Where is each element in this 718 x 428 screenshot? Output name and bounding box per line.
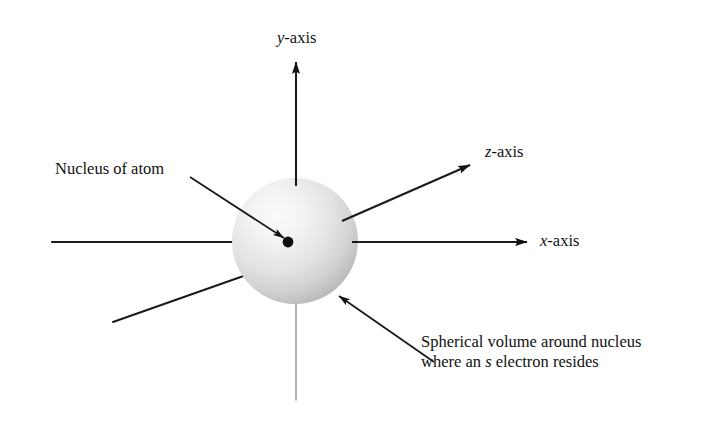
orbital-diagram: y-axis z-axis x-axis Nucleus of atom Sph…: [0, 0, 718, 428]
y-axis-label: y-axis: [277, 28, 316, 48]
sphere-callout-line2-after: electron resides: [492, 352, 599, 371]
z-axis-positive-arrow: [342, 165, 470, 221]
y-axis-label-suffix: -axis: [284, 28, 316, 47]
x-axis-label-suffix: -axis: [547, 231, 579, 250]
z-axis-label-suffix: -axis: [491, 142, 523, 161]
z-axis-label: z-axis: [485, 142, 524, 162]
sphere-callout-line2-before: where an: [421, 352, 485, 371]
sphere-callout-label: Spherical volume around nucleuswhere an …: [421, 332, 641, 372]
nucleus-callout-label: Nucleus of atom: [55, 159, 164, 179]
sphere-callout-line1: Spherical volume around nucleus: [421, 332, 641, 351]
x-axis-label: x-axis: [540, 231, 579, 251]
nucleus-dot: [283, 237, 294, 248]
orbital-sphere: [232, 178, 358, 304]
z-axis-negative-line: [113, 273, 252, 322]
sphere-leader-line: [339, 296, 434, 362]
